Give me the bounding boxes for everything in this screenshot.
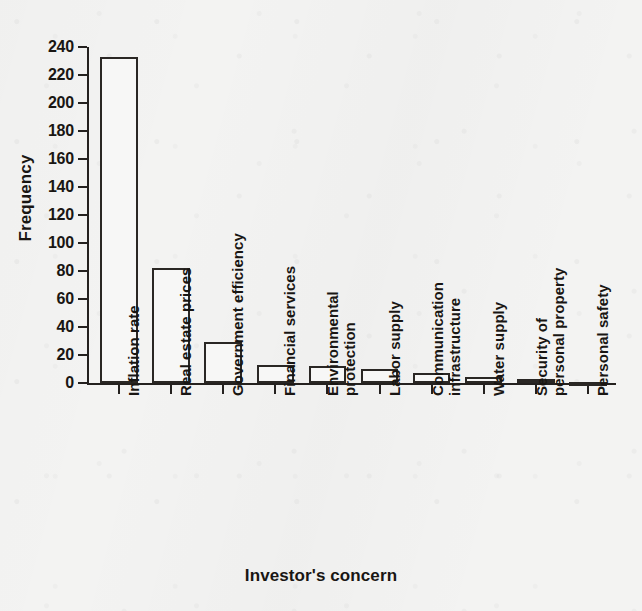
x-axis-category-label: Communicationinfrastructure [429,282,463,396]
x-axis-tick [274,385,276,394]
x-axis-category-label-line: Financial services [281,266,298,396]
x-axis-category-label-line: Personal safety [594,284,611,396]
y-axis-tick [78,102,87,104]
y-axis-tick-label: 0 [10,375,74,391]
y-axis-tick-label: 200 [10,95,74,111]
y-axis-tick [78,242,87,244]
x-axis-category-label-line: Security of [533,318,550,396]
x-axis-tick [483,385,485,394]
y-axis-tick-label: 20 [10,347,74,363]
x-axis-category-label: Labor supply [386,301,403,396]
y-axis-tick-label: 60 [10,291,74,307]
x-axis-category-label: Personal safety [594,284,611,396]
y-axis-tick [78,270,87,272]
y-axis-tick [78,130,87,132]
y-axis-tick [78,214,87,216]
x-axis-category-label-line: infrastructure [446,282,463,396]
y-axis-tick [78,74,87,76]
x-axis-category-label-line: Inflation rate [125,305,142,396]
x-axis-category-label-line: protection [341,291,358,396]
y-axis-tick [78,298,87,300]
y-axis-tick [78,186,87,188]
x-axis-tick [379,385,381,394]
x-axis-category-label-line: Labor supply [386,301,403,396]
x-axis-category-label: Real estate prices [177,268,194,396]
y-axis-tick [78,46,87,48]
bar-chart-plot: 240220200180160140120100806040200 Inflat… [0,0,642,611]
x-axis-category-label-line: Real estate prices [177,268,194,396]
x-axis-category-label-line: Environmental [324,291,341,396]
x-axis-tick [170,385,172,394]
y-axis-line [87,47,89,384]
x-axis-category-label-line: personal property [550,268,567,396]
x-axis-category-label: Inflation rate [125,305,142,396]
y-axis-tick-label: 80 [10,263,74,279]
x-axis-tick [118,385,120,394]
y-axis-tick-label: 220 [10,67,74,83]
x-axis-category-label: Water supply [490,302,507,396]
chart-figure: 240220200180160140120100806040200 Inflat… [0,0,642,611]
x-axis-tick [222,385,224,394]
x-axis-category-label: Financial services [281,266,298,396]
y-axis-tick [78,326,87,328]
y-axis-tick-label: 180 [10,123,74,139]
y-axis-tick [78,354,87,356]
y-axis-tick [78,158,87,160]
x-axis-category-label: Government efficiency [229,233,246,396]
x-axis-title: Investor's concern [191,566,451,586]
y-axis-tick [78,382,87,384]
y-axis-title: Frequency [16,138,36,258]
x-axis-category-label-line: Water supply [490,302,507,396]
x-axis-tick [587,385,589,394]
x-axis-category-label: Environmentalprotection [324,291,358,396]
x-axis-category-label-line: Government efficiency [229,233,246,396]
y-axis-tick-labels: 240220200180160140120100806040200 [8,0,74,611]
x-axis-category-label-line: Communication [429,282,446,396]
y-axis-tick-label: 240 [10,39,74,55]
x-axis-category-label: Security ofpersonal property [533,268,567,396]
y-axis-tick-label: 40 [10,319,74,335]
